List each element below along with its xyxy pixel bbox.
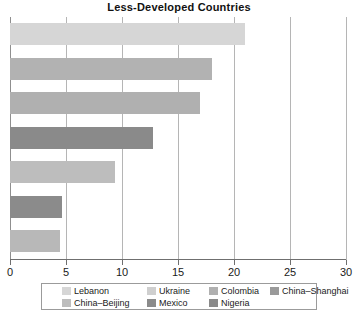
legend-item-label: Lebanon: [74, 286, 109, 296]
x-axis-tick-label: 20: [228, 266, 240, 278]
bar: [10, 161, 115, 183]
legend-item[interactable]: China–Beijing: [62, 297, 130, 309]
legend-item-label: China–Shanghai: [282, 286, 349, 296]
legend-swatch: [62, 287, 71, 295]
legend-swatch: [147, 299, 156, 307]
x-axis-tick: [346, 260, 347, 265]
bar: [10, 58, 212, 80]
legend-item[interactable]: Lebanon: [62, 285, 109, 297]
x-axis-tick: [290, 260, 291, 265]
bar-series: [10, 17, 346, 260]
x-axis-tick: [122, 260, 123, 265]
bar: [10, 92, 200, 114]
bar: [10, 127, 153, 149]
x-axis-tick-labels: 051015202530: [0, 266, 358, 280]
legend-item-label: China–Beijing: [74, 298, 130, 308]
legend-item-label: Mexico: [159, 298, 188, 308]
x-axis-tick-label: 10: [116, 266, 128, 278]
legend-item-label: Ukraine: [159, 286, 190, 296]
bar: [10, 230, 60, 252]
chart-container: Less-Developed Countries 051015202530 Le…: [0, 0, 358, 313]
x-axis-tick-label: 15: [172, 266, 184, 278]
legend-item[interactable]: China–Shanghai: [270, 285, 349, 297]
legend-row: LebanonUkraineColombiaChina–Shanghai: [42, 285, 316, 297]
legend-swatch: [147, 287, 156, 295]
x-axis-tick: [234, 260, 235, 265]
legend-item[interactable]: Ukraine: [147, 285, 190, 297]
legend-row: China–BeijingMexicoNigeria: [42, 297, 316, 309]
chart-title: Less-Developed Countries: [0, 1, 358, 13]
legend-item[interactable]: Colombia: [209, 285, 259, 297]
legend-item[interactable]: Mexico: [147, 297, 188, 309]
legend-swatch: [270, 287, 279, 295]
x-axis-tick-label: 25: [284, 266, 296, 278]
x-axis-tick: [66, 260, 67, 265]
bar: [10, 23, 245, 45]
x-axis-tick-label: 5: [63, 266, 69, 278]
legend-item-label: Colombia: [221, 286, 259, 296]
bar: [10, 196, 62, 218]
gridline: [346, 17, 347, 260]
x-axis-tick-label: 30: [340, 266, 352, 278]
legend-item[interactable]: Nigeria: [209, 297, 250, 309]
legend-swatch: [62, 299, 71, 307]
legend-item-label: Nigeria: [221, 298, 250, 308]
x-axis-tick: [178, 260, 179, 265]
legend-swatch: [209, 287, 218, 295]
x-axis-tick: [10, 260, 11, 265]
x-axis-tick-label: 0: [7, 266, 13, 278]
legend-swatch: [209, 299, 218, 307]
plot-area: [10, 17, 346, 260]
chart-legend: LebanonUkraineColombiaChina–Shanghai Chi…: [41, 283, 317, 310]
